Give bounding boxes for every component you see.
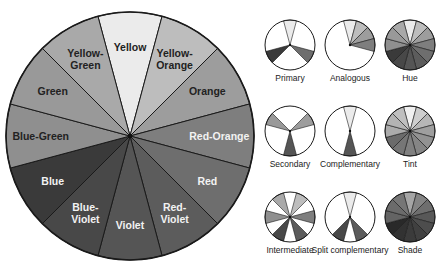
scheme-split-complementary: Split complementary [311,192,389,255]
scheme-center-dot [409,130,411,132]
scheme-center-dot [289,130,291,132]
scheme-label: Analogous [330,73,370,83]
wedge-label-green: Green [38,85,68,97]
scheme-center-dot [349,44,351,46]
wedge-label-red: Red [197,175,217,187]
scheme-primary: Primary [265,20,315,83]
scheme-label: Hue [402,73,418,83]
scheme-label: Tint [403,159,417,169]
scheme-center-dot [289,44,291,46]
wedge-label-red-orange: Red-Orange [189,130,249,142]
scheme-intermediate: Intermediate [265,192,315,255]
scheme-center-dot [409,44,411,46]
scheme-analogous: Analogous [325,20,375,83]
wedge-label-yellow: Yellow [114,41,148,53]
scheme-center-dot [289,216,291,218]
scheme-hue: Hue [385,20,435,83]
scheme-label: Shade [398,245,423,255]
main-color-wheel: YellowYellow-OrangeOrangeRed-OrangeRedRe… [6,12,254,260]
wheel-center-dot [128,134,132,138]
scheme-label: Split complementary [311,245,389,255]
scheme-shade: Shade [385,192,435,255]
scheme-label: Intermediate [266,245,314,255]
scheme-center-dot [349,216,351,218]
scheme-label: Complementary [320,159,381,169]
scheme-center-dot [349,130,351,132]
scheme-complementary: Complementary [320,106,381,169]
scheme-label: Primary [275,73,305,83]
wedge-label-yellow-green: Yellow-Green [67,47,104,71]
wedge-label-violet: Violet [116,219,145,231]
wedge-label-yellow-orange: Yellow-Orange [156,47,193,71]
wedge-label-blue-green: Blue-Green [12,130,69,142]
scheme-center-dot [409,216,411,218]
scheme-tint: Tint [385,106,435,169]
scheme-label: Secondary [270,159,311,169]
color-scheme-wheels: PrimaryAnalogousHueSecondaryComplementar… [265,20,435,255]
color-wheel-diagram: YellowYellow-OrangeOrangeRed-OrangeRedRe… [0,0,443,269]
scheme-secondary: Secondary [265,106,315,169]
wedge-label-red-violet: Red-Violet [160,201,189,225]
wedge-label-blue: Blue [41,175,64,187]
wedge-label-blue-violet: Blue-Violet [71,201,100,225]
wedge-label-orange: Orange [189,85,226,97]
